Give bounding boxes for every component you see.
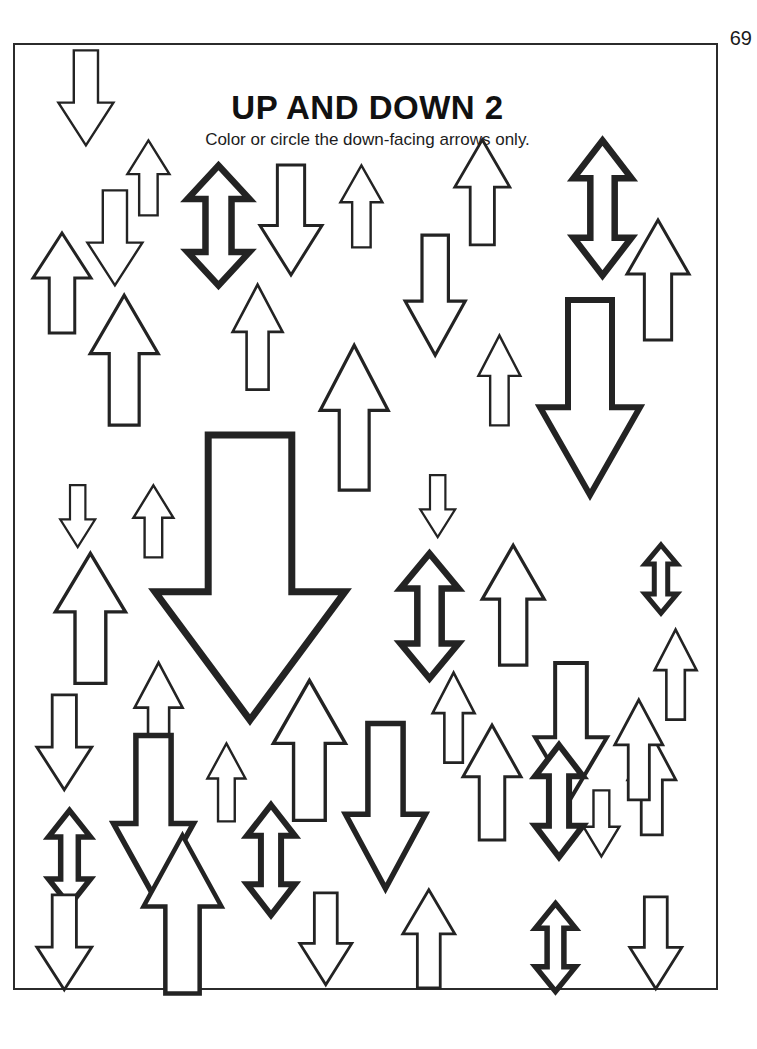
arrow-up-32[interactable]: [623, 730, 681, 840]
arrow-down-06-outline: [260, 165, 322, 275]
arrow-double-05[interactable]: [179, 157, 258, 294]
arrow-down-17[interactable]: [56, 481, 99, 551]
arrow-up-18[interactable]: [129, 481, 178, 562]
arrow-double-23-outline: [400, 553, 458, 678]
arrow-down-36-outline: [345, 723, 425, 888]
arrow-up-28-outline: [273, 680, 345, 820]
arrow-up-25-outline: [655, 630, 697, 720]
arrow-up-10[interactable]: [622, 215, 694, 345]
arrow-up-32-outline: [628, 735, 676, 835]
worksheet-frame: UP AND DOWN 2 Color or circle the down-f…: [13, 43, 718, 990]
arrow-down-40[interactable]: [579, 786, 624, 861]
arrow-up-29-outline: [207, 743, 245, 821]
arrow-down-03-outline: [87, 190, 142, 285]
arrow-up-11[interactable]: [85, 290, 163, 430]
arrow-double-09-outline: [573, 140, 631, 275]
arrow-up-24-outline: [482, 545, 544, 665]
arrow-down-03[interactable]: [83, 186, 147, 290]
arrow-down-16-outline: [540, 300, 640, 495]
arrow-up-29[interactable]: [203, 739, 250, 826]
arrow-double-23[interactable]: [392, 545, 467, 687]
arrow-up-02-outline: [127, 140, 169, 215]
arrow-double-09[interactable]: [565, 132, 640, 284]
arrow-up-11-outline: [90, 295, 158, 425]
arrow-down-43-outline: [300, 893, 352, 985]
arrow-up-15-outline: [478, 335, 520, 425]
arrow-up-24[interactable]: [477, 540, 549, 670]
arrow-up-02[interactable]: [123, 136, 174, 220]
worksheet-page: 69 UP AND DOWN 2 Color or circle the dow…: [0, 0, 757, 1049]
arrow-up-15[interactable]: [474, 331, 525, 430]
arrow-up-12-outline: [233, 285, 283, 390]
arrow-down-21-outline: [155, 435, 345, 720]
arrow-double-20-outline: [645, 545, 677, 613]
arrow-double-45[interactable]: [528, 896, 583, 999]
page-title: UP AND DOWN 2: [15, 91, 720, 124]
arrow-up-14[interactable]: [315, 340, 393, 495]
arrow-up-44-outline: [403, 890, 455, 988]
arrow-down-31[interactable]: [529, 657, 613, 804]
arrow-up-10-outline: [627, 220, 689, 340]
arrow-double-35-outline: [247, 805, 295, 915]
arrow-up-39-outline: [615, 700, 663, 800]
arrow-down-13-outline: [405, 235, 465, 355]
arrow-up-18-outline: [133, 485, 173, 557]
arrow-down-42-outline: [37, 895, 92, 990]
arrow-up-30[interactable]: [428, 668, 479, 767]
arrow-up-37-outline: [463, 725, 521, 840]
arrow-down-26-outline: [37, 695, 92, 790]
arrow-up-07[interactable]: [336, 161, 387, 252]
arrow-up-04-outline: [33, 233, 91, 333]
arrow-down-46[interactable]: [625, 892, 687, 994]
arrow-up-07-outline: [340, 165, 382, 247]
arrow-double-05-outline: [187, 165, 249, 285]
arrow-down-31-outline: [535, 663, 607, 798]
arrow-up-08-outline: [455, 140, 510, 245]
arrow-up-44[interactable]: [398, 885, 460, 993]
arrow-down-17-outline: [60, 485, 95, 547]
arrow-up-27[interactable]: [130, 658, 187, 767]
arrow-down-19-outline: [420, 475, 455, 537]
arrow-double-38-outline: [535, 745, 583, 857]
arrow-down-06[interactable]: [255, 160, 327, 280]
arrow-up-22-outline: [55, 553, 125, 683]
arrow-up-41[interactable]: [137, 829, 228, 1000]
arrow-down-43[interactable]: [295, 888, 357, 990]
arrow-down-26[interactable]: [32, 690, 97, 795]
arrow-up-41-outline: [143, 835, 221, 993]
arrow-down-21[interactable]: [146, 426, 354, 729]
arrow-down-13[interactable]: [400, 230, 470, 360]
arrow-up-12[interactable]: [228, 280, 287, 394]
arrow-down-42[interactable]: [32, 890, 97, 995]
arrow-down-16[interactable]: [532, 292, 648, 503]
arrow-up-25[interactable]: [650, 625, 701, 724]
arrow-up-27-outline: [135, 663, 183, 763]
arrow-double-33[interactable]: [41, 803, 98, 913]
arrow-up-28[interactable]: [268, 675, 351, 826]
instruction-text: Color or circle the down-facing arrows o…: [15, 131, 720, 148]
arrow-field: [15, 45, 720, 992]
arrow-up-30-outline: [433, 673, 475, 763]
arrow-down-19[interactable]: [416, 471, 459, 541]
arrow-up-04[interactable]: [28, 228, 96, 338]
arrow-up-39[interactable]: [610, 695, 668, 805]
arrow-double-35[interactable]: [239, 797, 303, 923]
arrow-down-40-outline: [583, 790, 619, 856]
arrow-down-34[interactable]: [106, 728, 201, 903]
arrow-down-36[interactable]: [338, 716, 433, 896]
page-number: 69: [730, 28, 752, 48]
arrow-down-46-outline: [630, 897, 682, 989]
arrow-double-33-outline: [48, 810, 90, 905]
arrow-down-34-outline: [113, 735, 193, 895]
arrow-up-14-outline: [320, 345, 388, 490]
arrow-up-08[interactable]: [450, 135, 515, 250]
arrow-up-37[interactable]: [458, 720, 526, 845]
arrow-double-20[interactable]: [638, 538, 684, 620]
arrow-up-22[interactable]: [50, 548, 131, 689]
arrow-double-45-outline: [535, 903, 575, 991]
arrow-double-38[interactable]: [527, 737, 591, 865]
